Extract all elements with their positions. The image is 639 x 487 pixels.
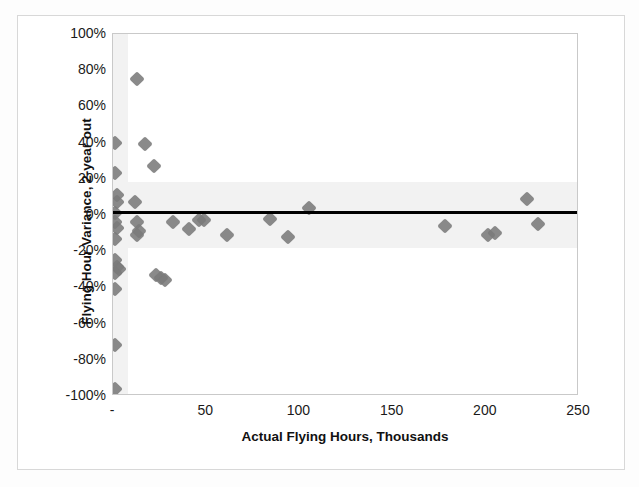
x-tick-label: 50	[197, 403, 213, 417]
x-tick-label: 150	[380, 403, 403, 417]
y-tick-label: 80%	[78, 62, 106, 76]
y-tick-label: -100%	[66, 388, 106, 402]
x-axis-title: Actual Flying Hours, Thousands	[112, 429, 578, 444]
y-tick-label: -80%	[73, 352, 106, 366]
x-tick-label: 250	[566, 403, 589, 417]
y-axis-title-wrapper: Flying Hour Variance, 2-year out	[46, 0, 47, 1]
x-tick-label: 200	[473, 403, 496, 417]
x-tick-label: -	[110, 403, 115, 417]
x-tick-label: 100	[287, 403, 310, 417]
scatter-point	[146, 158, 162, 174]
trendline	[113, 211, 578, 214]
scatter-point	[129, 71, 145, 87]
y-axis-title: Flying Hour Variance, 2-year out	[79, 92, 94, 352]
plot-area	[112, 33, 578, 395]
tolerance-band-horizontal	[113, 182, 577, 247]
y-tick-label: 100%	[70, 26, 106, 40]
scatter-point	[137, 137, 153, 153]
chart-page: 100%80%60%40%20%0%-20%-40%-60%-80%-100% …	[0, 0, 639, 487]
x-axis-tick-labels: -50100150200250	[0, 403, 639, 425]
